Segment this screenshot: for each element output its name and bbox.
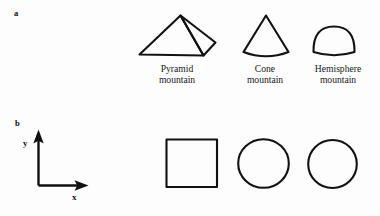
square-footprint-icon [167,140,218,188]
caption-hemisphere-line1: Hemisphere [300,63,376,74]
caption-pyramid-line1: Pyramid [138,63,216,74]
circle-footprint-icon-1 [238,139,289,188]
pyramid-mountain-icon [140,16,216,56]
cone-mountain-icon [244,16,289,57]
caption-pyramid-line2: mountain [138,74,216,85]
caption-hemisphere-mountain: Hemisphere mountain [300,63,376,85]
figure-drawing-layer [0,0,380,216]
caption-hemisphere-line2: mountain [300,74,376,85]
y-axis-label: y [23,139,28,148]
circle-footprint-icon-2 [308,140,357,188]
caption-cone-line2: mountain [234,74,296,85]
caption-cone-mountain: Cone mountain [234,63,296,85]
x-axis-label: x [72,193,77,202]
caption-pyramid-mountain: Pyramid mountain [138,63,216,85]
hemisphere-mountain-icon [313,27,354,56]
figure-root: a b [0,0,380,216]
caption-cone-line1: Cone [234,63,296,74]
coordinate-axes [33,130,88,191]
